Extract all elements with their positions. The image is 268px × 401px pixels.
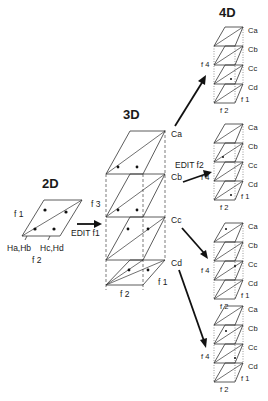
label-ha-hb: Ha,Hb bbox=[7, 243, 31, 253]
arrowhead-icon bbox=[94, 220, 102, 228]
panel-2d: 2D f 1 Ha,Hb Hc,Hd f 2 bbox=[7, 176, 82, 265]
edit-f1-label: EDIT f1 bbox=[71, 228, 100, 238]
layer-label-cd: Cd bbox=[248, 362, 258, 371]
layer-label-cb: Cb bbox=[248, 241, 258, 250]
axis-label-f2: f 2 bbox=[220, 203, 228, 212]
arrow-icon bbox=[175, 81, 203, 126]
stack-4d-3: Ca Cb Cc Cd f 4 f 1 f 2 bbox=[201, 222, 258, 311]
axis-label-f1: f 1 bbox=[14, 209, 24, 219]
axis-label-f2: f 2 bbox=[120, 289, 130, 299]
layer-label-ca: Ca bbox=[248, 26, 258, 35]
tick bbox=[25, 236, 27, 240]
layer-ca bbox=[106, 131, 165, 174]
edit-f1-step: EDIT f1 bbox=[71, 220, 102, 238]
layer-label-ca: Ca bbox=[171, 129, 182, 139]
layer-label-cb: Cb bbox=[248, 45, 258, 54]
layer-cb bbox=[106, 174, 165, 217]
layer-label-cb: Cb bbox=[248, 142, 258, 151]
axis-label-f1: f 1 bbox=[158, 277, 168, 287]
layer-label-cd: Cd bbox=[171, 258, 182, 268]
axis-label-f2: f 2 bbox=[32, 255, 42, 265]
axis-label-f1: f 1 bbox=[241, 374, 249, 383]
peak-dot bbox=[33, 227, 36, 230]
panel-3d: 3D bbox=[91, 107, 182, 299]
layer-label-cb: Cb bbox=[248, 324, 258, 333]
arrow-icon bbox=[182, 228, 204, 253]
peak-dot bbox=[43, 208, 46, 211]
axis-label-f3: f 3 bbox=[91, 199, 101, 209]
arrowhead-icon bbox=[200, 338, 207, 348]
axis-label-f1: f 1 bbox=[241, 192, 249, 201]
title-2d: 2D bbox=[42, 176, 59, 191]
axis-label-f2: f 2 bbox=[220, 106, 228, 115]
peak-dot bbox=[52, 227, 55, 230]
layer-cd bbox=[106, 260, 165, 285]
axis-label-f4: f 4 bbox=[201, 352, 209, 361]
stack-4d-4: Ca Cb Cc Cd f 4 f 1 f 2 bbox=[201, 305, 258, 394]
edit-f2-label: EDIT f2 bbox=[175, 160, 204, 170]
layer-label-ca: Ca bbox=[248, 305, 258, 314]
layer-label-cb: Cb bbox=[171, 172, 182, 182]
layer-cc bbox=[106, 217, 165, 260]
layer-label-cd: Cd bbox=[248, 83, 258, 92]
layer-label-ca: Ca bbox=[248, 123, 258, 132]
layer-label-cd: Cd bbox=[248, 180, 258, 189]
layer-label-cc: Cc bbox=[248, 343, 257, 352]
arrowhead-icon bbox=[200, 250, 208, 259]
layer-label-cc: Cc bbox=[171, 215, 182, 225]
arrows-3d-to-4d: EDIT f2 bbox=[175, 75, 212, 348]
axis-label-f2: f 2 bbox=[220, 385, 228, 394]
arrow-icon bbox=[179, 270, 204, 341]
layer-label-cc: Cc bbox=[248, 64, 257, 73]
axis-label-f4: f 4 bbox=[201, 266, 209, 275]
title-3d: 3D bbox=[123, 107, 140, 122]
peak-dot bbox=[64, 210, 67, 213]
layer-label-cd: Cd bbox=[248, 279, 258, 288]
axis-label-f4: f 4 bbox=[201, 173, 209, 182]
title-4d: 4D bbox=[219, 5, 236, 20]
nmr-dimension-diagram: 2D f 1 Ha,Hb Hc,Hd f 2 EDIT f1 3D bbox=[0, 0, 268, 401]
layer-label-ca: Ca bbox=[248, 222, 258, 231]
stack-4d-2: Ca Cb Cc Cd f 4 f 1 f 2 bbox=[201, 123, 258, 212]
layer-label-cc: Cc bbox=[248, 260, 257, 269]
label-hc-hd: Hc,Hd bbox=[40, 243, 64, 253]
axis-label-f4: f 4 bbox=[201, 60, 209, 69]
stack-4d-1: Ca Cb Cc Cd f 4 f 1 f 2 bbox=[201, 26, 258, 115]
axis-label-f2: f 2 bbox=[220, 302, 228, 311]
axis-label-f1: f 1 bbox=[241, 95, 249, 104]
tick bbox=[48, 236, 50, 240]
layer-label-cc: Cc bbox=[248, 161, 257, 170]
axis-label-f1: f 1 bbox=[241, 291, 249, 300]
